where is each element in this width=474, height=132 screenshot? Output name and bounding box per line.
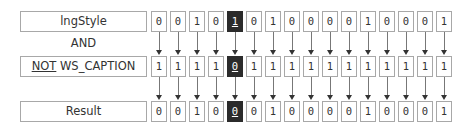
bit-cell: 0 [246, 11, 262, 32]
arrow-down-icon [322, 32, 338, 56]
bit-cell: 0 [151, 101, 167, 122]
bit-cell: 0 [341, 11, 357, 32]
arrow-down-icon [170, 77, 186, 101]
arrow-down-icon [360, 77, 376, 101]
bit-cell: 1 [436, 56, 452, 77]
bit-cell: 0 [303, 11, 319, 32]
result-label-box: Result [20, 101, 147, 122]
highlighted-bit-cell: 0 [227, 56, 243, 77]
bit-cell: 0 [284, 11, 300, 32]
bit-cell: 0 [322, 101, 338, 122]
arrow-down-icon [322, 77, 338, 101]
bit-cell: 1 [398, 56, 414, 77]
bit-cell: 0 [341, 101, 357, 122]
arrow-down-icon [417, 32, 433, 56]
bit-cell: 1 [189, 11, 205, 32]
style-label-box: lngStyle [20, 11, 147, 32]
arrow-down-icon [398, 32, 414, 56]
arrows-2 [151, 77, 455, 101]
arrow-down-icon [189, 77, 205, 101]
arrow-down-icon [227, 77, 243, 101]
highlighted-bit-cell: 1 [227, 11, 243, 32]
arrows-1 [151, 32, 455, 56]
arrow-down-icon [227, 32, 243, 56]
bit-cell: 1 [341, 56, 357, 77]
bit-cell: 1 [189, 101, 205, 122]
bit-cell: 1 [360, 101, 376, 122]
arrow-down-icon [208, 32, 224, 56]
bit-cell: 0 [170, 11, 186, 32]
bit-cell: 1 [284, 56, 300, 77]
bit-cell: 0 [284, 101, 300, 122]
bit-cell: 0 [379, 11, 395, 32]
bit-cell: 1 [303, 56, 319, 77]
style-label: lngStyle [60, 14, 107, 28]
result-label: Result [66, 104, 102, 118]
bit-cell: 0 [208, 101, 224, 122]
bit-cell: 0 [398, 101, 414, 122]
bit-cell: 1 [265, 11, 281, 32]
mask-bits-row: 1 1 1 1 0 1 1 1 1 1 1 1 1 1 1 1 [151, 56, 455, 77]
bit-cell: 0 [246, 101, 262, 122]
arrow-down-icon [265, 32, 281, 56]
bit-cell: 1 [322, 56, 338, 77]
bit-cell: 1 [246, 56, 262, 77]
arrow-down-icon [398, 77, 414, 101]
arrow-down-icon [208, 77, 224, 101]
arrow-down-icon [436, 77, 452, 101]
bit-cell: 0 [322, 11, 338, 32]
bit-cell: 1 [170, 56, 186, 77]
mask-label-box: NOT WS_CAPTION [20, 56, 147, 77]
arrow-down-icon [360, 32, 376, 56]
bit-cell: 0 [398, 11, 414, 32]
bit-cell: 0 [379, 101, 395, 122]
bit-cell: 0 [303, 101, 319, 122]
bit-cell: 0 [417, 11, 433, 32]
operator-label: AND [20, 36, 147, 50]
result-bits-row: 0 0 1 0 0 0 1 0 0 0 0 1 0 0 0 1 [151, 101, 455, 122]
bit-cell: 1 [436, 11, 452, 32]
arrow-down-icon [303, 32, 319, 56]
arrow-down-icon [246, 77, 262, 101]
mask-label-not: NOT [32, 59, 57, 73]
arrow-down-icon [417, 77, 433, 101]
bit-cell: 1 [265, 101, 281, 122]
bit-cell: 1 [379, 56, 395, 77]
bit-cell: 1 [208, 56, 224, 77]
arrow-down-icon [284, 77, 300, 101]
bit-cell: 0 [208, 11, 224, 32]
arrow-down-icon [189, 32, 205, 56]
bit-cell: 0 [151, 11, 167, 32]
arrow-down-icon [284, 32, 300, 56]
bit-cell: 1 [265, 56, 281, 77]
bit-cell: 1 [436, 101, 452, 122]
arrow-down-icon [341, 32, 357, 56]
arrow-down-icon [246, 32, 262, 56]
bit-cell: 1 [360, 11, 376, 32]
bit-cell: 1 [151, 56, 167, 77]
arrow-down-icon [303, 77, 319, 101]
highlighted-bit-cell: 0 [227, 101, 243, 122]
arrow-down-icon [379, 77, 395, 101]
arrow-down-icon [265, 77, 281, 101]
style-bits-row: 0 0 1 0 1 0 1 0 0 0 0 1 0 0 0 1 [151, 11, 455, 32]
bit-cell: 1 [417, 56, 433, 77]
arrow-down-icon [341, 77, 357, 101]
mask-label-constant: WS_CAPTION [56, 59, 135, 73]
bit-cell: 0 [170, 101, 186, 122]
arrow-down-icon [151, 77, 167, 101]
arrow-down-icon [170, 32, 186, 56]
arrow-down-icon [379, 32, 395, 56]
bit-cell: 0 [417, 101, 433, 122]
bit-cell: 1 [189, 56, 205, 77]
arrow-down-icon [436, 32, 452, 56]
bit-cell: 1 [360, 56, 376, 77]
arrow-down-icon [151, 32, 167, 56]
